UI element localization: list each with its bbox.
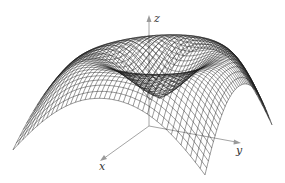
x-axis-label: x: [99, 160, 106, 173]
x-axis: [103, 126, 149, 159]
z-axis-arrow-icon: [147, 15, 152, 22]
y-axis-label: y: [235, 144, 243, 157]
wireframe-mesh: [13, 35, 272, 175]
surface-plot: z x y: [0, 0, 285, 183]
z-axis-label: z: [153, 12, 160, 25]
